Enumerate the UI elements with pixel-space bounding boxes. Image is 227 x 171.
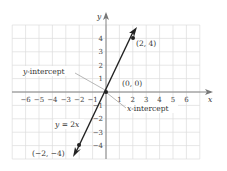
- x-tick-label: 5: [171, 96, 175, 104]
- y-tick-label: 4: [99, 35, 104, 43]
- x-tick-labels: −6−5−4−3−2−1123456: [20, 96, 189, 104]
- y-tick-label: 1: [99, 75, 103, 83]
- coordinate-plane: x y −6−5−4−3−2−1123456 4321−1−2−3−4 (2, …: [0, 0, 227, 171]
- x-tick-label: 3: [144, 96, 148, 104]
- x-tick-label: 6: [184, 96, 189, 104]
- point-0-0: [104, 90, 108, 94]
- label-point-2-4: (2, 4): [136, 39, 156, 48]
- x-intercept-label: x-intercept: [127, 104, 169, 113]
- x-tick-label: −6: [20, 96, 31, 104]
- y-tick-labels: 4321−1−2−3−4: [93, 35, 104, 150]
- label-point-neg2-neg4: (−2, −4): [32, 149, 65, 158]
- y-tick-label: −2: [93, 115, 103, 123]
- equation-label: y = 2x: [54, 120, 80, 129]
- y-intercept-label: y-intercept: [22, 67, 65, 76]
- y-axis-label: y: [96, 12, 102, 21]
- y-tick-label: 3: [99, 48, 103, 56]
- x-tick-label: −4: [47, 96, 58, 104]
- x-axis-label: x: [208, 95, 213, 104]
- point-neg2-neg4: [77, 143, 81, 147]
- y-tick-label: −3: [93, 129, 103, 137]
- label-point-0-0: (0, 0): [122, 79, 142, 88]
- x-tick-label: −5: [34, 96, 44, 104]
- x-tick-label: −2: [74, 96, 84, 104]
- x-tick-label: 2: [131, 96, 135, 104]
- point-2-4: [131, 36, 135, 40]
- x-tick-label: −3: [61, 96, 71, 104]
- x-tick-label: 4: [157, 96, 162, 104]
- y-tick-label: 2: [99, 62, 103, 70]
- y-tick-label: −4: [93, 142, 104, 150]
